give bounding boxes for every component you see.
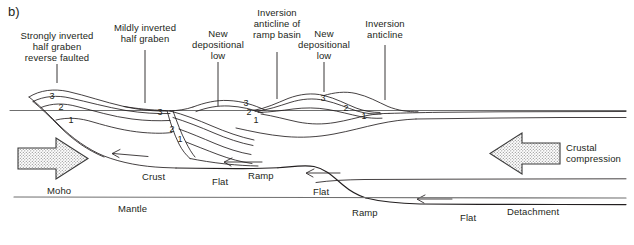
unit-number-anticline-2: 2 (343, 103, 348, 113)
unit-number-graben1-1: 1 (68, 115, 73, 125)
label-mantle: Mantle (118, 203, 147, 214)
unit-number-anticline-3: 3 (320, 93, 325, 103)
unit-number-graben1-2: 2 (58, 102, 63, 112)
fault-slip-arrow-upper-flat (224, 158, 262, 166)
fault-slip-arrow-detachment (417, 195, 452, 203)
compression-arrow-right (490, 133, 560, 174)
geological-cross-section-figure: b) Strongly inverted half graben reverse… (0, 0, 634, 245)
label-flat-3: Flat (460, 212, 476, 223)
label-moho: Moho (47, 185, 71, 196)
label-flat-2: Flat (313, 186, 329, 197)
label-ramp-1: Ramp (248, 170, 274, 181)
label-crustal-compression: Crustal compression (566, 142, 621, 164)
inversion-anticline-ramp-basin (236, 94, 626, 137)
label-ramp-2: Ramp (352, 207, 378, 218)
unit-number-rampbasin-1: 1 (253, 115, 258, 125)
compression-arrow-left (18, 138, 88, 179)
label-flat-1: Flat (212, 176, 228, 187)
label-detachment: Detachment (507, 206, 559, 217)
inversion-anticline-right (324, 92, 418, 112)
moho-line (14, 197, 626, 198)
label-crust: Crust (142, 171, 165, 182)
thrust-detachment-system (176, 166, 626, 205)
unit-number-graben1-3: 3 (49, 91, 54, 101)
unit-number-rampbasin-2: 2 (246, 107, 251, 117)
unit-number-graben2-1: 1 (177, 134, 182, 144)
panel-label: b) (8, 4, 20, 19)
unit-number-graben2-2: 2 (169, 124, 174, 134)
fault-slip-arrow-left (112, 150, 148, 158)
label-inversion-anticline: Inversion anticline (343, 18, 427, 40)
unit-number-anticline-1: 1 (361, 111, 366, 121)
unit-number-graben2-3: 3 (157, 107, 162, 117)
